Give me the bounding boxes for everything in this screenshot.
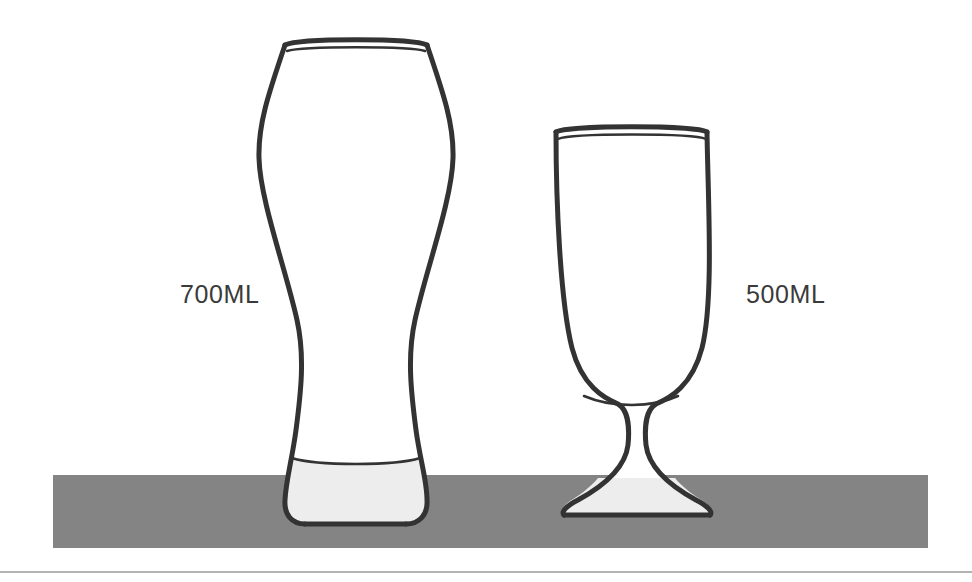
table-surface-band bbox=[53, 475, 928, 548]
volume-label-tall-glass: 700ML bbox=[180, 280, 259, 308]
volume-label-stemmed-glass: 500ML bbox=[746, 280, 825, 308]
tall-glass-base-liquid-fill bbox=[285, 458, 427, 524]
illustration-canvas: 700ML 500ML bbox=[0, 0, 972, 582]
beer-glass-comparison-illustration: 700ML 500ML bbox=[0, 0, 972, 582]
